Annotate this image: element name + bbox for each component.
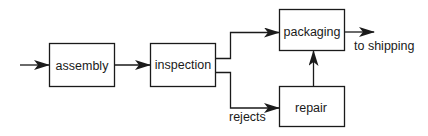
node-assembly: assembly xyxy=(50,44,115,87)
node-repair: repair xyxy=(280,87,345,127)
node-packaging: packaging xyxy=(280,10,345,51)
rejects-label: rejects xyxy=(229,110,266,124)
repair-label: repair xyxy=(295,101,327,115)
inspection-to-packaging-arrow xyxy=(215,33,279,59)
packaging-label: packaging xyxy=(284,25,341,39)
inspection-to-repair-arrow xyxy=(215,73,279,109)
inspection-label: inspection xyxy=(155,58,211,72)
node-inspection: inspection xyxy=(151,44,216,87)
process-flow-diagram: assembly inspection rejects packaging re… xyxy=(0,0,428,136)
assembly-label: assembly xyxy=(56,59,110,73)
to-shipping-label: to shipping xyxy=(354,39,415,53)
